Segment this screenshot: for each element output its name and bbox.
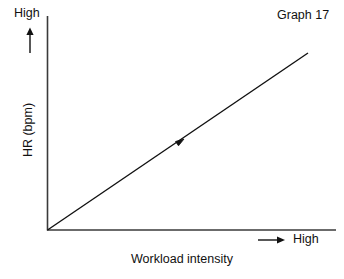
graph-number-label: Graph 17 [277,9,329,22]
x-axis-high-label: High [293,233,319,246]
x-axis-right-arrow-icon [258,236,285,243]
y-axis-high-label: High [14,7,40,20]
y-axis-up-arrow-icon [26,28,33,54]
trend-line-direction-arrowhead-icon [176,139,185,146]
y-axis-title: HR (bpm) [22,103,35,157]
graph-figure: High HR (bpm) Workload intensity High Gr… [0,0,344,279]
x-axis-title: Workload intensity [131,253,233,266]
